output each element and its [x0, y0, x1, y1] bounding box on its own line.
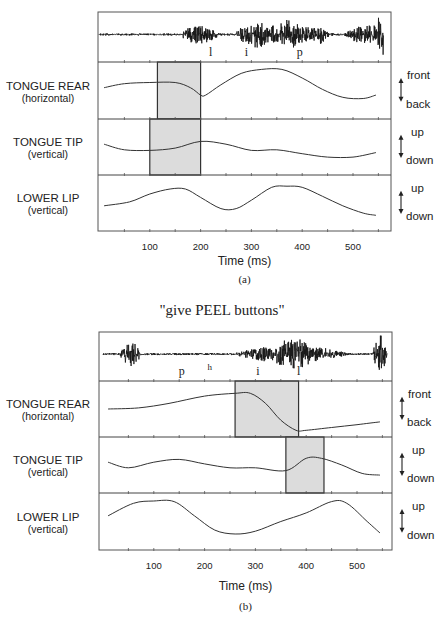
- articulator-name: TONGUE TIP: [13, 454, 83, 466]
- direction-up-label: up: [412, 500, 425, 512]
- x-tick-label: 400: [298, 560, 314, 571]
- double-arrow-icon: [399, 78, 404, 102]
- figure-a-plot: lipTONGUE REAR(horizontal)frontbackTONGU…: [0, 0, 444, 290]
- figure-b-title: "give PEEL buttons": [0, 302, 444, 319]
- articulator-sublabel: (horizontal): [22, 410, 75, 422]
- direction-up-label: up: [411, 126, 424, 138]
- articulator-sublabel: (vertical): [28, 148, 68, 160]
- phoneme-label: l: [297, 364, 301, 378]
- direction-up-label: front: [407, 69, 431, 81]
- direction-up-label: up: [411, 182, 424, 194]
- double-arrow-icon: [399, 191, 404, 214]
- highlight-region: [286, 437, 324, 493]
- articulator-sublabel: (vertical): [28, 523, 68, 535]
- double-arrow-icon: [400, 397, 405, 420]
- x-tick-label: 100: [142, 241, 158, 252]
- x-tick-label: 500: [349, 560, 365, 571]
- articulator-sublabel: (horizontal): [22, 92, 75, 104]
- figure-a: lipTONGUE REAR(horizontal)frontbackTONGU…: [0, 0, 444, 290]
- double-arrow-icon: [400, 509, 405, 533]
- articulator-sublabel: (vertical): [28, 466, 68, 478]
- direction-down-label: back: [407, 416, 432, 428]
- articulator-name: LOWER LIP: [17, 511, 80, 523]
- highlight-region: [235, 381, 299, 437]
- figure-caption: (a): [238, 273, 251, 286]
- figure-b: philTONGUE REAR(horizontal)frontbackTONG…: [0, 320, 444, 618]
- x-tick-label: 300: [243, 241, 259, 252]
- x-tick-label: 200: [197, 560, 213, 571]
- articulator-trace: [104, 186, 376, 215]
- articulator-trace: [108, 500, 380, 534]
- direction-down-label: back: [406, 98, 431, 110]
- figure-b-plot: philTONGUE REAR(horizontal)frontbackTONG…: [0, 320, 444, 618]
- direction-up-label: front: [408, 388, 432, 400]
- phoneme-label: i: [256, 364, 260, 378]
- articulator-trace: [108, 457, 380, 475]
- articulator-sublabel: (vertical): [28, 204, 68, 216]
- x-axis-label: Time (ms): [218, 254, 272, 268]
- articulator-name: TONGUE REAR: [6, 80, 90, 92]
- direction-up-label: up: [412, 444, 425, 456]
- highlight-region: [150, 119, 201, 175]
- x-tick-label: 500: [345, 241, 361, 252]
- articulator-trace: [104, 141, 376, 157]
- direction-down-label: down: [407, 529, 435, 541]
- x-axis-label: Time (ms): [219, 579, 273, 593]
- x-tick-label: 300: [247, 560, 263, 571]
- double-arrow-icon: [399, 135, 404, 158]
- phoneme-label: p: [179, 364, 185, 378]
- phoneme-label: i: [245, 45, 249, 59]
- double-arrow-icon: [400, 453, 405, 476]
- phoneme-label: h: [207, 362, 212, 372]
- direction-down-label: down: [407, 472, 435, 484]
- phoneme-label: l: [209, 45, 213, 59]
- direction-down-label: down: [406, 210, 434, 222]
- acoustic-waveform: [103, 336, 388, 370]
- plot-frame: [99, 332, 392, 550]
- phoneme-label: p: [297, 45, 303, 59]
- x-tick-label: 400: [294, 241, 310, 252]
- articulator-name: TONGUE REAR: [6, 398, 90, 410]
- articulator-name: TONGUE TIP: [13, 136, 83, 148]
- x-tick-label: 200: [193, 241, 209, 252]
- articulator-trace: [104, 69, 376, 99]
- articulator-name: LOWER LIP: [17, 192, 80, 204]
- figure-caption: (b): [239, 600, 252, 613]
- acoustic-waveform: [99, 18, 384, 55]
- direction-down-label: down: [406, 154, 434, 166]
- x-tick-label: 100: [146, 560, 162, 571]
